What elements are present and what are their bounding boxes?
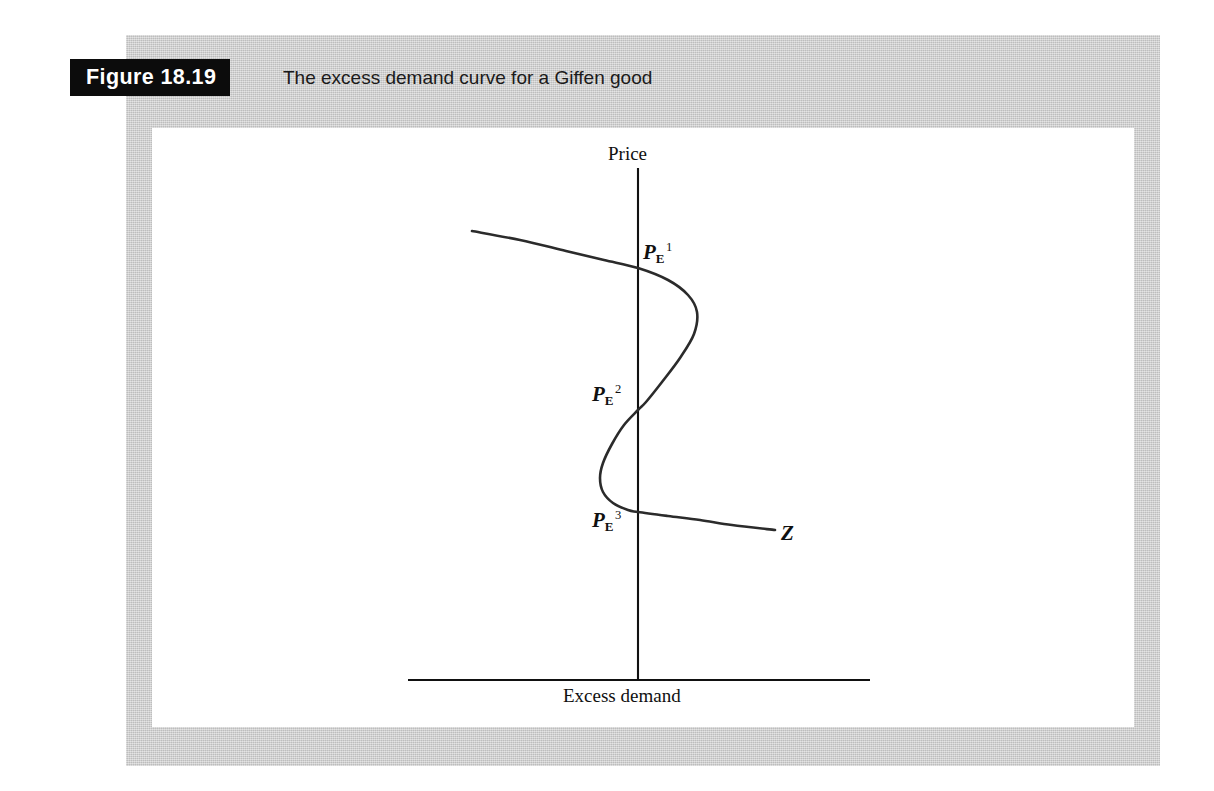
figure-number-banner: Figure 18.19 (70, 59, 230, 96)
pe2-superscript: 2 (615, 382, 621, 396)
excess-demand-axis-label: Excess demand (563, 685, 681, 707)
equilibrium-price-3-label: PE3 (592, 508, 621, 535)
price-axis-label: Price (608, 143, 647, 165)
equilibrium-price-1-label: PE1 (643, 240, 672, 267)
curve-label-z: Z (781, 521, 794, 546)
figure-page: Figure 18.19 The excess demand curve for… (0, 0, 1214, 791)
pe3-base: P (592, 508, 605, 532)
pe1-superscript: 1 (666, 240, 672, 254)
pe3-subscript: E (605, 519, 614, 534)
pe2-base: P (592, 382, 605, 406)
pe1-subscript: E (656, 251, 665, 266)
equilibrium-price-2-label: PE2 (592, 382, 621, 409)
figure-caption: The excess demand curve for a Giffen goo… (283, 61, 652, 94)
pe1-base: P (643, 240, 656, 264)
figure-canvas (152, 128, 1134, 727)
pe2-subscript: E (605, 393, 614, 408)
pe3-superscript: 3 (615, 508, 621, 522)
